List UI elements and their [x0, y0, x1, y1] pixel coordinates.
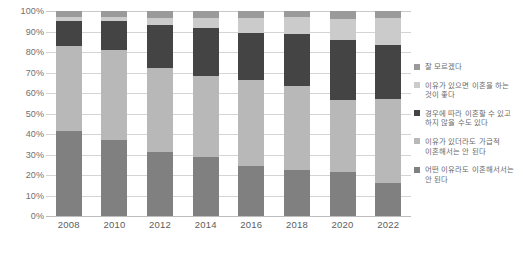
bar-segment[interactable] [330, 40, 356, 100]
bar-segment[interactable] [193, 76, 219, 157]
legend-label: 이유가 있으면 이혼을 하는 것이 좋다 [425, 81, 509, 100]
bar-group-2008[interactable] [56, 11, 82, 216]
x-axis: 20082010201220142016201820202022 [46, 219, 411, 239]
legend-swatch-icon [414, 138, 420, 144]
bar-group-2018[interactable] [284, 11, 310, 216]
x-axis-tick-label: 2022 [362, 219, 414, 230]
bar-segment[interactable] [284, 34, 310, 86]
bar-group-2010[interactable] [101, 11, 127, 216]
bar-group-2012[interactable] [147, 11, 173, 216]
legend-swatch-icon [414, 82, 420, 88]
bar-segment[interactable] [147, 18, 173, 25]
bar-segment[interactable] [284, 86, 310, 170]
legend-item[interactable]: 경우에 따라 이혼할 수 있고 하지 않을 수도 있다 [414, 109, 522, 128]
bar-segment[interactable] [238, 80, 264, 166]
x-axis-tick-label: 2014 [180, 219, 232, 230]
bar-segment[interactable] [101, 140, 127, 216]
x-axis-tick-label: 2010 [88, 219, 140, 230]
bar-segment[interactable] [375, 18, 401, 45]
chart-legend: 잘 모르겠다이유가 있으면 이혼을 하는 것이 좋다경우에 따라 이혼할 수 있… [414, 62, 522, 193]
bar-segment[interactable] [375, 183, 401, 216]
bar-segment[interactable] [193, 157, 219, 216]
y-axis-tick-label: 20% [2, 171, 44, 180]
bar-group-2020[interactable] [330, 11, 356, 216]
bar-segment[interactable] [330, 172, 356, 216]
x-axis-tick-label: 2020 [317, 219, 369, 230]
bar-segment[interactable] [284, 17, 310, 33]
bar-segment[interactable] [147, 11, 173, 18]
bar-segment[interactable] [147, 68, 173, 152]
y-axis-tick-label: 40% [2, 130, 44, 139]
bar-segment[interactable] [193, 11, 219, 18]
bar-segment[interactable] [238, 18, 264, 32]
y-axis-tick-label: 0% [2, 212, 44, 221]
bar-segment[interactable] [330, 19, 356, 40]
bar-segment[interactable] [238, 11, 264, 18]
y-axis-tick-label: 80% [2, 48, 44, 57]
y-axis: 0%10%20%30%40%50%60%70%80%90%100% [0, 11, 44, 216]
bar-segment[interactable] [375, 99, 401, 183]
bar-segment[interactable] [193, 28, 219, 75]
bar-group-2014[interactable] [193, 11, 219, 216]
x-axis-tick-label: 2018 [271, 219, 323, 230]
bar-segment[interactable] [147, 25, 173, 68]
legend-label: 이유가 있더라도 가급적 이혼해서는 안 된다 [425, 137, 500, 156]
bar-segment[interactable] [284, 170, 310, 216]
legend-item[interactable]: 이유가 있더라도 가급적 이혼해서는 안 된다 [414, 137, 522, 156]
bar-segment[interactable] [375, 11, 401, 18]
y-axis-tick-label: 50% [2, 110, 44, 119]
legend-item[interactable]: 잘 모르겠다 [414, 62, 522, 72]
legend-label: 잘 모르겠다 [425, 62, 462, 72]
legend-swatch-icon [414, 110, 420, 116]
legend-swatch-icon [414, 167, 420, 173]
legend-label: 어떤 이유라도 이혼해서서는 안 된다 [425, 165, 514, 184]
y-axis-tick-label: 10% [2, 192, 44, 201]
y-axis-tick-label: 70% [2, 69, 44, 78]
legend-swatch-icon [414, 64, 420, 70]
x-axis-tick-label: 2012 [134, 219, 186, 230]
legend-label: 경우에 따라 이혼할 수 있고 하지 않을 수도 있다 [425, 109, 511, 128]
bar-segment[interactable] [330, 100, 356, 172]
y-axis-tick-label: 30% [2, 151, 44, 160]
legend-item[interactable]: 이유가 있으면 이혼을 하는 것이 좋다 [414, 81, 522, 100]
legend-item[interactable]: 어떤 이유라도 이혼해서서는 안 된다 [414, 165, 522, 184]
bar-segment[interactable] [101, 50, 127, 140]
bar-segment[interactable] [56, 46, 82, 131]
gridline-0% [46, 216, 411, 217]
bar-segment[interactable] [375, 45, 401, 99]
bar-segment[interactable] [56, 131, 82, 216]
x-axis-tick-label: 2016 [225, 219, 277, 230]
bar-segment[interactable] [193, 18, 219, 28]
bar-group-2022[interactable] [375, 11, 401, 216]
y-axis-tick-label: 100% [2, 7, 44, 16]
stacked-bar-chart: 0%10%20%30%40%50%60%70%80%90%100% 200820… [0, 0, 523, 262]
bar-segment[interactable] [147, 152, 173, 216]
bar-segment[interactable] [101, 21, 127, 50]
plot-area [46, 11, 411, 216]
bar-segment[interactable] [238, 166, 264, 216]
x-axis-tick-label: 2008 [43, 219, 95, 230]
bar-segment[interactable] [238, 33, 264, 80]
bar-segment[interactable] [330, 11, 356, 19]
bar-group-2016[interactable] [238, 11, 264, 216]
y-axis-tick-label: 60% [2, 89, 44, 98]
y-axis-tick-label: 90% [2, 28, 44, 37]
bar-segment[interactable] [56, 21, 82, 46]
